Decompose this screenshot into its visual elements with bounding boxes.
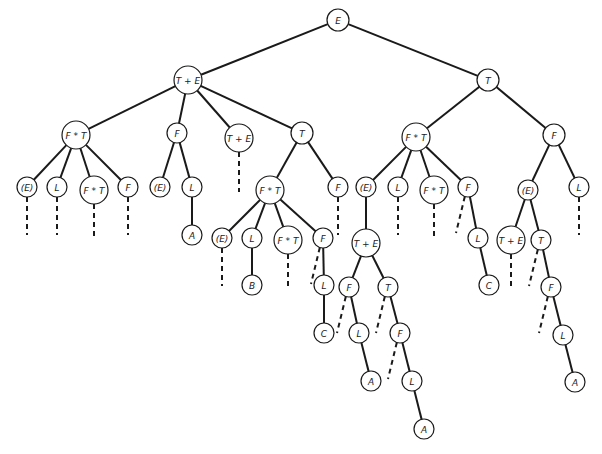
tree-node: A [182,225,202,245]
node-label: L [249,234,254,244]
tree-node: C [479,275,499,295]
tree-edge [372,256,383,279]
tree-node: T + E [225,124,253,152]
tree-edge [480,248,486,276]
node-label: A [571,378,578,388]
tree-node: A [361,371,381,391]
tree-node: F [328,177,348,197]
node-label: F * T [278,236,300,246]
node-label: T + E [499,236,524,246]
tree-edge [414,391,421,420]
tree-node: F [313,228,333,248]
tree-node: F [390,323,410,343]
tree-edge [391,297,398,324]
node-label: C [486,281,493,291]
tree-edge [421,150,430,176]
node-label: F [397,329,403,339]
node-label: C [321,329,328,339]
tree-edge [531,200,539,231]
tree-edge [553,297,560,326]
tree-edge [163,143,174,178]
tree-edge [308,142,332,179]
tree-node: T [531,230,551,250]
tree-node: (E) [150,177,170,197]
node-label: F * T [84,186,106,196]
parse-tree-diagram: ET + ETF * TFT + ETF * TF(E)LF * TF(E)LA… [0,0,602,454]
tree-node: L [349,323,369,343]
tree-edge [89,86,176,129]
tree-edge [201,24,328,75]
tree-node: L [402,371,422,391]
node-label: A [188,231,195,241]
tree-node: T + E [352,229,380,257]
tree-node: F [543,124,565,146]
node-label: F [346,283,352,293]
tree-node: F [167,123,187,143]
tree-edge [401,150,411,177]
tree-node: L [388,177,408,197]
node-label: (E) [522,186,535,196]
tree-node: E [327,9,349,31]
node-label: L [321,281,326,291]
tree-node: F [339,277,359,297]
tree-node: L [47,177,67,197]
node-label: F [551,131,557,141]
node-label: T + E [354,239,379,249]
tree-edge [543,250,549,277]
tree-node: T [291,122,313,144]
tree-node: L [242,228,262,248]
tree-node: F [458,177,478,197]
elided-subtree-stub [388,342,397,379]
node-label: L [356,329,361,339]
tree-node: T + E [497,226,525,254]
tree-edge [516,199,525,226]
node-label: L [189,183,194,193]
tree-node: L [182,177,202,197]
tree-edge [351,297,357,323]
tree-edge [373,147,406,180]
node-label: F [125,183,131,193]
tree-edge [86,145,121,180]
tree-node: T + E [174,66,202,94]
tree-node: F [541,277,561,297]
node-label: F [465,183,471,193]
tree-node: (E) [17,177,37,197]
elided-subtree-stub [376,296,385,333]
node-label: T + E [227,134,252,144]
tree-node: (E) [212,228,232,248]
tree-edge [559,145,575,178]
node-label: F [320,234,326,244]
tree-nodes: ET + ETF * TFT + ETF * TF(E)LF * TF(E)LA… [17,9,589,439]
elided-subtree-stub [337,296,346,333]
tree-dashed-stubs [27,152,579,379]
node-label: F [174,129,180,139]
tree-node: F [118,177,138,197]
tree-edge [80,148,89,176]
node-label: L [395,183,400,193]
node-label: F * T [406,133,428,143]
tree-edge [426,147,461,180]
tree-node: L [553,325,573,345]
node-label: L [560,331,565,341]
tree-edge [179,94,185,124]
node-label: F [335,183,341,193]
node-label: (E) [360,183,373,193]
tree-node: F * T [420,176,448,204]
tree-node: F * T [274,226,302,254]
tree-node: A [414,419,434,439]
tree-edge [201,86,292,128]
tree-node: F * T [80,176,108,204]
tree-node: L [569,177,589,197]
tree-node: T [378,277,398,297]
node-label: A [367,377,374,387]
tree-edge [402,343,409,372]
tree-edge [427,87,479,128]
tree-node: L [468,228,488,248]
node-label: (E) [21,183,34,193]
tree-node: F * T [256,176,284,204]
tree-node: (E) [356,177,376,197]
tree-edge [353,256,361,278]
tree-edge [496,87,545,128]
tree-edge [532,145,549,181]
tree-node: A [565,372,585,392]
